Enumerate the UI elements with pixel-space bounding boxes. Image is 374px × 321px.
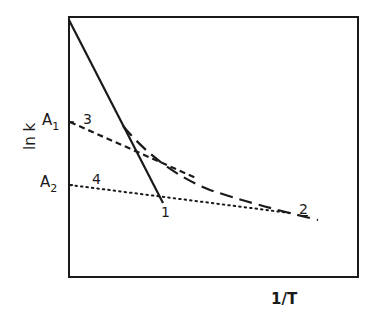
series-3-line xyxy=(70,122,196,178)
x-axis-label: 1/T xyxy=(271,290,297,308)
series-2-curve xyxy=(123,126,318,220)
curve-2-label: 2 xyxy=(299,201,308,217)
series-4-line xyxy=(70,185,290,213)
plot-frame xyxy=(69,17,358,277)
curve-3-label: 3 xyxy=(83,111,92,127)
arrhenius-plot xyxy=(0,0,374,321)
a2-label: A2 xyxy=(40,175,57,190)
a1-main: A xyxy=(42,111,52,129)
a1-subscript: 1 xyxy=(52,120,59,133)
a2-main: A xyxy=(40,173,50,191)
a1-label: A1 xyxy=(42,113,59,128)
curve-4-label: 4 xyxy=(92,171,101,187)
a2-subscript: 2 xyxy=(50,182,57,195)
y-axis-label: ln k xyxy=(21,123,39,150)
curve-1-label: 1 xyxy=(161,204,170,220)
